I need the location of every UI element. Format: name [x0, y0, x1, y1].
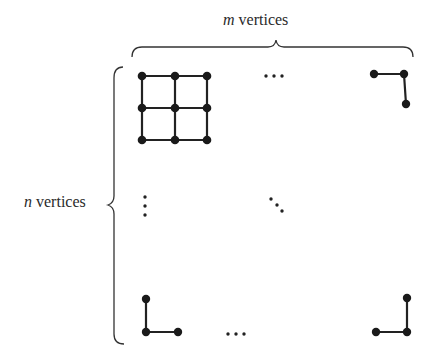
ellipsis-bottom-horizontal [226, 332, 245, 335]
ellipsis-top-horizontal [264, 74, 283, 77]
corner-top-right [370, 70, 410, 108]
m-variable: m [223, 11, 235, 28]
grid-graph-diagram [0, 0, 430, 354]
left-brace [108, 67, 124, 344]
ellipsis-left-vertical [143, 195, 146, 216]
n-variable: n [24, 193, 32, 210]
n-vertices-text: vertices [32, 193, 86, 210]
ellipsis-center-diagonal [269, 197, 283, 212]
corner-bottom-right [372, 294, 411, 336]
n-vertices-label: n vertices [24, 193, 86, 211]
m-vertices-text: vertices [235, 11, 289, 28]
m-vertices-label: m vertices [223, 11, 288, 29]
top-brace [132, 40, 413, 57]
corner-bottom-left [142, 295, 182, 336]
